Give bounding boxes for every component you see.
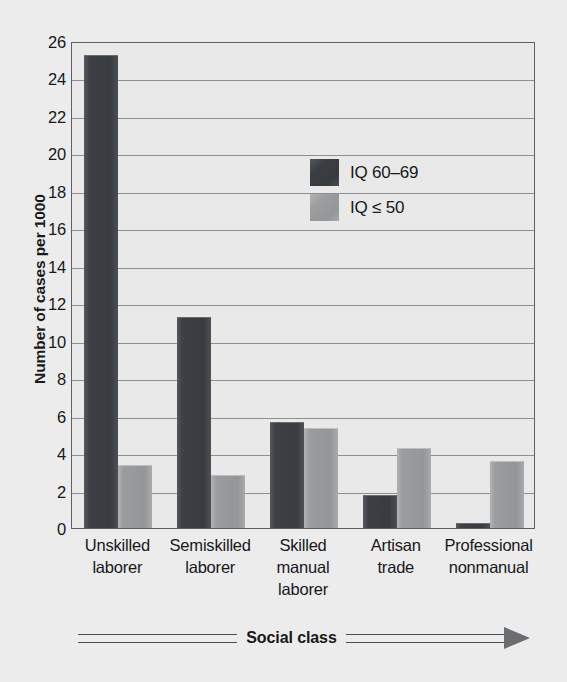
x-axis-category-label: Artisantrade [343,534,448,578]
bar [211,475,245,528]
bar [304,428,338,528]
y-axis-tick-label: 4 [18,445,66,464]
y-axis-tick-label: 0 [18,520,66,539]
plot-area [71,42,535,529]
legend-item: IQ 60–69 [310,155,490,190]
bar [397,448,431,528]
bar [118,465,152,528]
legend: IQ 60–69IQ ≤ 50 [310,155,490,225]
y-axis-tick-label: 10 [18,332,66,351]
x-axis-category-label: Unskilledlaborer [65,534,170,578]
y-axis-tick-label: 26 [18,33,66,52]
bar-series-container [72,43,534,528]
y-axis-tick-label: 2 [18,482,66,501]
x-axis-category-labels: UnskilledlaborerSemiskilledlaborerSkille… [71,534,535,612]
axis-arrow-line-left [78,634,237,643]
x-axis-title: Social class [237,629,345,647]
y-axis-tick-labels: 26242220181614121086420 [18,42,66,529]
arrow-head-icon [504,627,530,649]
y-axis-tick-label: 20 [18,145,66,164]
legend-label: IQ ≤ 50 [350,198,404,218]
bar [270,422,304,528]
legend-item: IQ ≤ 50 [310,190,490,225]
x-axis-title-arrow: Social class [78,625,530,651]
legend-label: IQ 60–69 [350,163,418,183]
y-axis-tick-label: 12 [18,295,66,314]
y-axis-tick-label: 8 [18,370,66,389]
chart-figure: Number of cases per 1000 262422201816141… [0,0,567,682]
bar [456,523,490,528]
bar [84,55,118,528]
bar [490,461,524,528]
y-axis-tick-label: 14 [18,257,66,276]
x-axis-category-label: Professionalnonmanual [436,534,541,578]
bar [177,317,211,528]
y-axis-tick-label: 18 [18,182,66,201]
y-axis-tick-label: 6 [18,407,66,426]
y-axis-tick-label: 24 [18,70,66,89]
x-axis-category-label: Skilledmanuallaborer [251,534,356,600]
legend-swatch-icon [310,159,339,186]
y-axis-tick-label: 22 [18,107,66,126]
x-axis-category-label: Semiskilledlaborer [158,534,263,578]
legend-swatch-icon [310,194,339,221]
bar [363,495,397,528]
axis-arrow-line-right [346,634,505,643]
y-axis-tick-label: 16 [18,220,66,239]
